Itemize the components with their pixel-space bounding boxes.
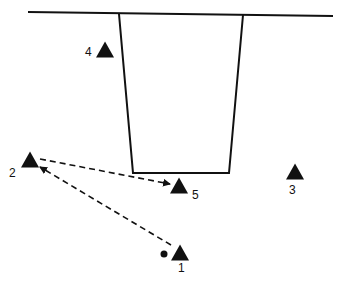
station-triangle-icon [21,152,39,168]
station-label: 2 [9,166,16,180]
origin-dot-icon [161,251,168,258]
station-triangle-icon [96,42,114,58]
station-triangle-icon [170,178,188,194]
station-triangle-icon [171,245,189,261]
station-triangle-icon [286,164,304,180]
station-label: 3 [289,183,296,197]
survey-diagram: 12345 [0,0,340,282]
dashed-arrow-1-to-2 [40,167,171,245]
diagram-svg: 12345 [0,0,340,282]
ground-line [28,12,333,16]
dashed-arrow-2-to-5 [40,159,170,184]
station-label: 1 [178,261,185,275]
station-label: 4 [85,45,92,59]
trench-outline [119,14,243,173]
station-label: 5 [192,188,199,202]
